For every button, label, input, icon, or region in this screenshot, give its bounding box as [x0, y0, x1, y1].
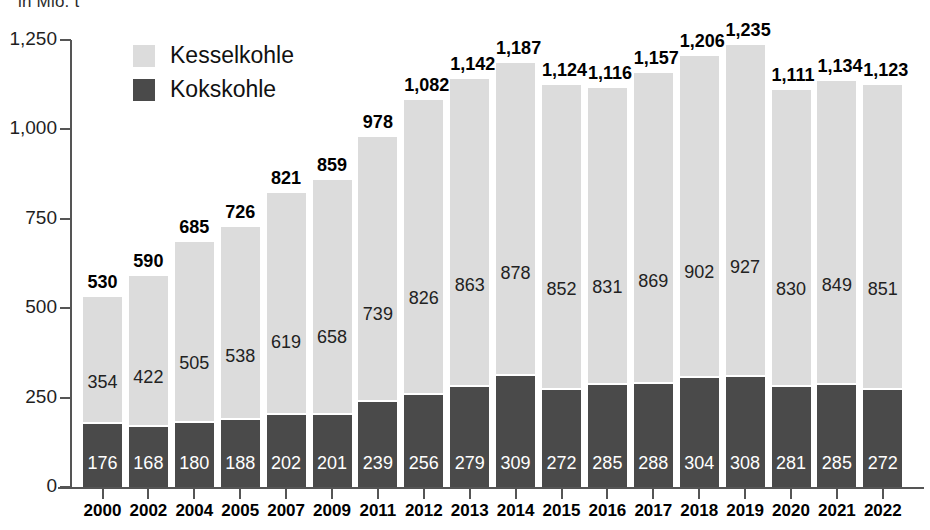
bar-total-label: 1,157 [634, 49, 673, 67]
bar-segment-kesselkohle[interactable] [588, 88, 627, 383]
legend-label-kokskohle: Kokskohle [170, 76, 276, 103]
bar-segment-kesselkohle[interactable] [634, 73, 673, 382]
y-tick-mark [60, 397, 71, 399]
bar-value-kesselkohle: 619 [267, 333, 306, 351]
bar-group[interactable]: 505180685 [175, 242, 214, 487]
bar-segment-kesselkohle[interactable] [772, 90, 811, 385]
bar-segment-kesselkohle[interactable] [83, 297, 122, 422]
bar-group[interactable]: 8312851,116 [588, 88, 627, 487]
bar-segment-kesselkohle[interactable] [175, 242, 214, 421]
legend-item-kesselkohle: Kesselkohle [133, 40, 294, 71]
bar-value-kokskohle: 272 [863, 454, 902, 472]
x-tick-mark [331, 489, 333, 499]
bar-group[interactable]: 619202821 [267, 193, 306, 487]
bar-value-kesselkohle: 658 [313, 328, 352, 346]
bar-value-kesselkohle: 927 [726, 258, 765, 276]
bar-total-label: 1,124 [542, 61, 581, 79]
bar-value-kokskohle: 308 [726, 454, 765, 472]
bar-segment-kesselkohle[interactable] [817, 81, 856, 383]
bar-segment-kokskohle[interactable] [267, 415, 306, 487]
bar-value-kesselkohle: 739 [358, 305, 397, 323]
bar-segment-kesselkohle[interactable] [496, 63, 535, 375]
bar-value-kokskohle: 285 [588, 454, 627, 472]
bar-value-kokskohle: 279 [450, 454, 489, 472]
bar-segment-kesselkohle[interactable] [726, 45, 765, 374]
y-tick-mark [60, 218, 71, 220]
bar-total-label: 1,134 [817, 57, 856, 75]
bar-segment-kesselkohle[interactable] [680, 56, 719, 377]
bar-value-kesselkohle: 831 [588, 278, 627, 296]
bar-segment-kesselkohle[interactable] [267, 193, 306, 412]
bar-segment-kesselkohle[interactable] [221, 227, 260, 417]
bar-value-kesselkohle: 863 [450, 276, 489, 294]
bar-value-kokskohle: 272 [542, 454, 581, 472]
y-tick-label: 500 [0, 296, 57, 318]
bar-segment-kesselkohle[interactable] [404, 100, 443, 393]
bar-total-label: 859 [313, 156, 352, 174]
bar-total-label: 1,111 [772, 66, 811, 84]
y-tick-mark [60, 128, 71, 130]
bar-total-label: 978 [358, 113, 397, 131]
x-tick-mark [239, 489, 241, 499]
chart-legend: Kesselkohle Kokskohle [133, 40, 294, 108]
bar-value-kokskohle: 188 [221, 454, 260, 472]
y-tick-mark [60, 486, 71, 488]
x-tick-mark [652, 489, 654, 499]
stacked-bar-chart: in Mio. t 02505007501,0001,250 354176530… [0, 0, 930, 530]
bar-group[interactable]: 9023041,206 [680, 56, 719, 487]
bar-total-label: 530 [83, 273, 122, 291]
y-axis-line [70, 40, 72, 488]
bar-value-kokskohle: 309 [496, 454, 535, 472]
x-tick-mark [836, 489, 838, 499]
bar-value-kokskohle: 239 [358, 454, 397, 472]
bar-segment-kokskohle[interactable] [313, 415, 352, 487]
bar-segment-kesselkohle[interactable] [450, 79, 489, 386]
bar-group[interactable]: 8302811,111 [772, 90, 811, 487]
bar-segment-kokskohle[interactable] [404, 395, 443, 487]
bar-value-kesselkohle: 826 [404, 289, 443, 307]
bar-group[interactable]: 739239978 [358, 137, 397, 487]
bar-group[interactable]: 8492851,134 [817, 81, 856, 487]
x-tick-mark [469, 489, 471, 499]
x-axis-label-2022: 2022 [853, 501, 913, 521]
bar-group[interactable]: 8692881,157 [634, 73, 673, 487]
bar-group[interactable]: 8783091,187 [496, 63, 535, 487]
bar-group[interactable]: 9273081,235 [726, 45, 765, 487]
x-tick-mark [377, 489, 379, 499]
y-tick-label: 0 [0, 475, 57, 497]
bar-group[interactable]: 8632791,142 [450, 79, 489, 487]
bar-group[interactable]: 8522721,124 [542, 85, 581, 487]
bar-value-kesselkohle: 869 [634, 272, 673, 290]
bar-group[interactable]: 354176530 [83, 297, 122, 487]
bar-group[interactable]: 658201859 [313, 180, 352, 487]
bar-segment-kesselkohle[interactable] [863, 85, 902, 387]
bar-group[interactable]: 8262561,082 [404, 100, 443, 487]
bar-value-kokskohle: 202 [267, 454, 306, 472]
y-tick-label: 1,250 [0, 28, 57, 50]
bar-segment-kesselkohle[interactable] [129, 276, 168, 425]
bar-total-label: 1,082 [404, 76, 443, 94]
x-tick-mark [882, 489, 884, 499]
x-tick-mark [606, 489, 608, 499]
bar-group[interactable]: 422168590 [129, 276, 168, 487]
bar-segment-kokskohle[interactable] [358, 402, 397, 487]
x-tick-mark [285, 489, 287, 499]
y-tick-mark [60, 307, 71, 309]
bar-total-label: 1,123 [863, 61, 902, 79]
bar-segment-kesselkohle[interactable] [313, 180, 352, 413]
unit-note: in Mio. t [18, 0, 79, 12]
bar-segment-kesselkohle[interactable] [542, 85, 581, 388]
bar-value-kesselkohle: 830 [772, 280, 811, 298]
bar-group[interactable]: 538188726 [221, 227, 260, 487]
bar-total-label: 1,187 [496, 39, 535, 57]
bar-total-label: 1,206 [680, 32, 719, 50]
bar-value-kokskohle: 176 [83, 454, 122, 472]
bar-value-kesselkohle: 538 [221, 347, 260, 365]
bar-value-kokskohle: 285 [817, 454, 856, 472]
legend-item-kokskohle: Kokskohle [133, 74, 294, 105]
bar-value-kesselkohle: 422 [129, 368, 168, 386]
bar-group[interactable]: 8512721,123 [863, 85, 902, 487]
bar-segment-kesselkohle[interactable] [358, 137, 397, 399]
x-tick-mark [147, 489, 149, 499]
bar-total-label: 726 [221, 203, 260, 221]
